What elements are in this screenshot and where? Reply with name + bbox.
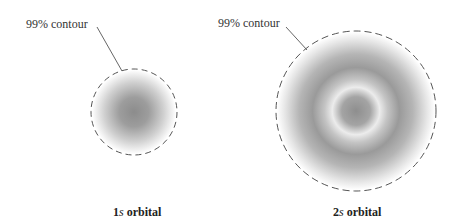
orbital-1s-contour-label: 99% contour	[26, 17, 88, 31]
orbital-1s: 99% contour 1s orbital	[26, 17, 177, 219]
orbital-1s-leader-line	[97, 27, 122, 71]
orbital-2s-label: 2s orbital	[333, 205, 382, 219]
diagram-canvas: 99% contour 1s orbital 99% contour 2s or…	[0, 0, 461, 219]
orbital-2s: 99% contour 2s orbital	[218, 16, 436, 219]
orbital-1s-label: 1s orbital	[113, 205, 162, 219]
orbital-2s-leader-line	[286, 27, 307, 50]
orbital-diagram: 99% contour 1s orbital 99% contour 2s or…	[0, 0, 461, 219]
orbital-2s-contour-label: 99% contour	[218, 16, 280, 30]
orbital-1s-density	[92, 70, 176, 154]
orbital-2s-density	[277, 32, 435, 190]
